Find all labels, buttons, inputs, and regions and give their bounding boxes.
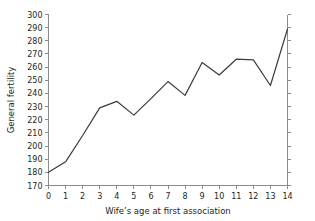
y-tick-label: 280 (27, 37, 42, 46)
x-tick-label: 6 (148, 192, 153, 201)
x-tick-label: 12 (248, 192, 258, 201)
y-axis-title: General fertility (6, 67, 16, 134)
y-tick-label: 270 (27, 50, 42, 59)
y-tick-label: 260 (27, 63, 42, 72)
x-tick-label: 2 (80, 192, 85, 201)
x-tick-label: 10 (214, 192, 224, 201)
fertility-series-line (49, 29, 288, 172)
x-tick-label: 11 (231, 192, 241, 201)
x-tick-label: 8 (183, 192, 188, 201)
x-tick-label: 0 (46, 192, 51, 201)
x-tick-label: 9 (200, 192, 205, 201)
y-tick-label: 210 (27, 129, 42, 138)
y-tick-label: 290 (27, 24, 42, 33)
y-tick-label: 240 (27, 89, 42, 98)
y-tick-label: 180 (27, 168, 42, 177)
y-tick-label: 190 (27, 155, 42, 164)
y-tick-label: 300 (27, 11, 42, 20)
x-tick-label: 4 (114, 192, 119, 201)
x-tick-marks (49, 186, 288, 190)
x-tick-labels: 01234567891011121314 (46, 192, 293, 201)
x-axis-title: Wife’s age at first association (105, 206, 231, 216)
right-tick-marks (288, 15, 292, 186)
x-tick-label: 7 (165, 192, 170, 201)
y-tick-label: 230 (27, 103, 42, 112)
chart-container: 1701801902002102202302402502602702802903… (0, 0, 315, 221)
x-tick-label: 5 (131, 192, 136, 201)
x-tick-label: 3 (97, 192, 102, 201)
x-tick-label: 13 (265, 192, 275, 201)
y-tick-label: 170 (27, 182, 42, 191)
y-tick-marks (45, 15, 49, 186)
y-tick-label: 250 (27, 76, 42, 85)
y-tick-label: 200 (27, 142, 42, 151)
x-tick-label: 14 (282, 192, 292, 201)
plot-axes (49, 15, 288, 186)
x-tick-label: 1 (63, 192, 68, 201)
y-tick-label: 220 (27, 116, 42, 125)
y-tick-labels: 1701801902002102202302402502602702802903… (27, 11, 42, 191)
line-chart-figure: 1701801902002102202302402502602702802903… (0, 0, 315, 221)
